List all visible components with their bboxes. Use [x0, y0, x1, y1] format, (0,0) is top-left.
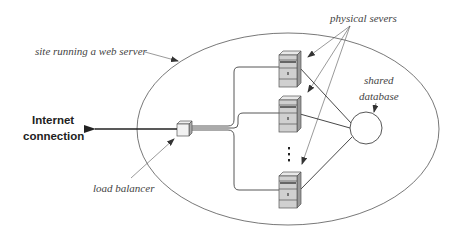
shared-database-icon: [350, 112, 382, 144]
load-balancer-icon: [177, 121, 192, 136]
internet-label-line2: connection: [23, 130, 84, 142]
server-1-icon: [279, 51, 301, 87]
architecture-diagram: site running a web server physical sever…: [0, 0, 459, 238]
servers-pointer-3: [302, 26, 350, 164]
database-label-pointer: [374, 103, 376, 112]
servers-label: physical severs: [329, 12, 397, 24]
lb-server-wires: [190, 67, 280, 190]
load-balancer-pointer: [131, 139, 174, 178]
site-label: site running a web server: [35, 45, 148, 57]
servers-pointer-1: [308, 26, 350, 57]
site-label-pointer: [145, 52, 178, 61]
servers-pointer-2: [308, 26, 350, 92]
internet-label-line1: Internet: [32, 114, 74, 126]
load-balancer-label: load balancer: [93, 182, 155, 194]
server-db-links: [300, 68, 352, 190]
database-label-line2: database: [359, 90, 399, 102]
server-2-icon: [279, 96, 301, 132]
more-servers-ellipsis: [288, 147, 290, 161]
database-label-line1: shared: [364, 74, 394, 86]
server-n-icon: [279, 172, 301, 208]
